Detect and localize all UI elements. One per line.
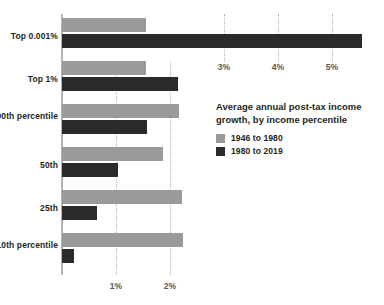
bar-1946-1980 (62, 147, 163, 161)
category-label-10th: 10th percentile (0, 240, 58, 251)
legend-label-1946-1980: 1946 to 1980 (231, 133, 283, 143)
legend-label-1980-2019: 1980 to 2019 (231, 146, 283, 156)
x-tick-label-1-percent: 1% (110, 281, 123, 291)
bar-1980-2019 (62, 206, 97, 220)
chart-legend: Average annual post-tax income growth, b… (216, 101, 382, 159)
legend-item-1980-2019: 1980 to 2019 (216, 146, 382, 156)
category-label-top-0001: Top 0.001% (0, 31, 58, 42)
category-label-50th: 50th (0, 160, 58, 171)
category-label-25th: 25th (0, 203, 58, 214)
bar-1980-2019 (62, 120, 147, 134)
legend-swatch-icon-1980-2019 (216, 147, 225, 156)
bar-1980-2019 (62, 77, 178, 91)
bar-1946-1980 (62, 18, 146, 32)
legend-title: Average annual post-tax income growth, b… (216, 101, 382, 126)
bar-1980-2019 (62, 34, 362, 48)
bar-1980-2019 (62, 163, 118, 177)
x-tick-label-4-percent: 4% (272, 62, 285, 72)
bar-1946-1980 (62, 190, 182, 204)
x-tick-label-2-percent: 2% (164, 281, 177, 291)
bar-1980-2019 (62, 249, 74, 263)
legend-item-1946-1980: 1946 to 1980 (216, 133, 382, 143)
bar-1946-1980 (62, 233, 183, 247)
income-growth-bar-chart: Top 0.001% Top 1% 90th percentile 50th 2… (0, 0, 384, 305)
x-tick-label-5-percent: 5% (326, 62, 339, 72)
x-tick-label-3-percent: 3% (218, 62, 231, 72)
legend-swatch-icon-1946-1980 (216, 134, 225, 143)
bar-1946-1980 (62, 61, 146, 75)
bar-1946-1980 (62, 104, 179, 118)
category-label-90th: 90th percentile (0, 111, 58, 122)
category-label-top-1: Top 1% (0, 74, 58, 85)
